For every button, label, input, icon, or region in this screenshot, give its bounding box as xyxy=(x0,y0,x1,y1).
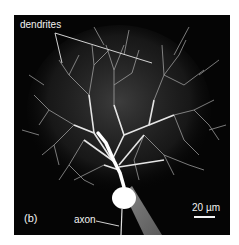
axon-label: axon xyxy=(74,215,96,225)
axon-process xyxy=(121,209,122,235)
micrograph-frame: dendrites (b) axon 20 µm xyxy=(14,15,230,235)
dendrites-label: dendrites xyxy=(20,20,61,30)
scale-bar xyxy=(194,216,215,218)
panel-label: (b) xyxy=(24,213,37,223)
scale-bar-label: 20 µm xyxy=(192,203,220,213)
axon-pointer-line xyxy=(96,221,119,226)
soma xyxy=(112,187,136,209)
